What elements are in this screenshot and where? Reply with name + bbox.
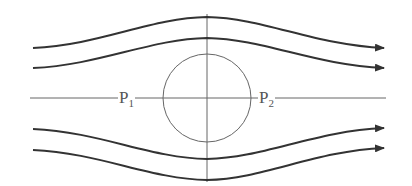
streamline-bottom-outer (33, 148, 384, 180)
streamline-top-inner (33, 38, 384, 68)
flow-diagram (0, 0, 412, 186)
label-p1-sub: 1 (128, 97, 134, 109)
label-p2: P2 (258, 89, 275, 109)
label-p1: P1 (118, 89, 135, 109)
label-p2-sub: 2 (268, 97, 274, 109)
streamline-top-outer (33, 17, 384, 48)
